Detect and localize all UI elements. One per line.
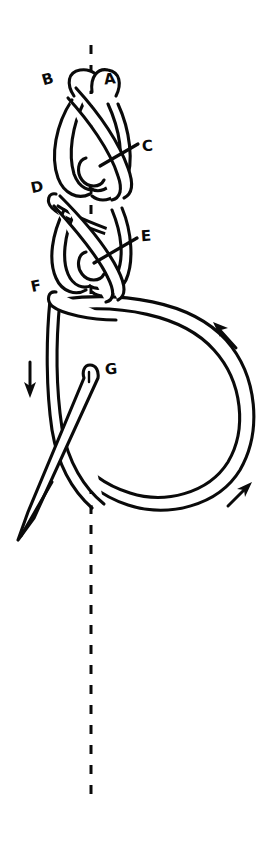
knot-illustration [0, 0, 276, 851]
arrow-up-right-lower-right [228, 482, 252, 506]
arrow-up-right-shaft [228, 488, 246, 506]
knot-diagram-figure: A B C D E F G [0, 0, 276, 851]
label-e: E [140, 229, 151, 245]
label-a: A [103, 71, 116, 87]
label-g: G [104, 362, 117, 378]
label-c: C [141, 139, 153, 155]
arrow-down-left [24, 362, 36, 398]
